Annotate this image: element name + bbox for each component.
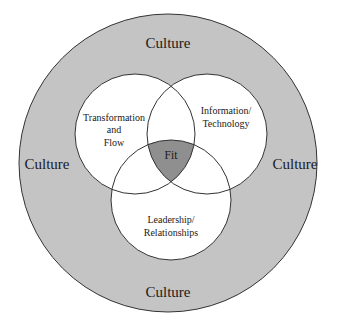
- culture-label-left: Culture: [25, 156, 70, 172]
- fit-label: Fit: [165, 149, 179, 161]
- information-label-1: Information/: [201, 105, 252, 116]
- information-label-2: Technology: [202, 118, 249, 129]
- culture-label-right: Culture: [273, 156, 318, 172]
- leadership-label-1: Leadership/: [147, 214, 194, 225]
- transformation-label-1: Transformation: [83, 112, 145, 123]
- culture-label-bottom: Culture: [146, 284, 191, 300]
- transformation-label-3: Flow: [104, 137, 125, 148]
- venn-diagram: Culture Culture Culture Culture Transfor…: [0, 0, 338, 324]
- transformation-label-2: and: [107, 124, 121, 135]
- leadership-label-2: Relationships: [144, 227, 199, 238]
- culture-label-top: Culture: [146, 35, 191, 51]
